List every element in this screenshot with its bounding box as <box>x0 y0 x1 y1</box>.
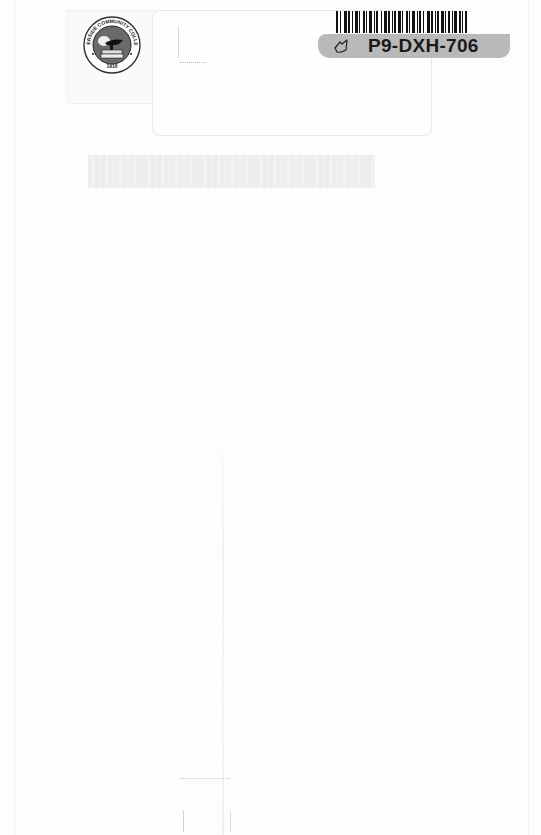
barcode <box>336 11 496 33</box>
pencil-marks-bottom <box>180 770 230 779</box>
label-strip: P9-DXH-706 <box>318 34 510 58</box>
pencil-tick <box>183 810 184 832</box>
redacted-stamp-band <box>88 155 375 188</box>
library-leaf-icon <box>332 36 352 56</box>
barcode-label: P9-DXH-706 <box>318 8 510 58</box>
svg-text:1916: 1916 <box>106 63 117 69</box>
page-edge-left <box>14 0 15 835</box>
pencil-tick <box>230 812 231 832</box>
college-seal-icon: RIVERSIDE COMMUNITY COLLEGE 1916 <box>83 16 141 74</box>
barcode-id: P9-DXH-706 <box>368 35 479 57</box>
pencil-mark <box>178 26 179 58</box>
pencil-scribble <box>180 58 206 63</box>
page-edge-right <box>528 0 529 835</box>
